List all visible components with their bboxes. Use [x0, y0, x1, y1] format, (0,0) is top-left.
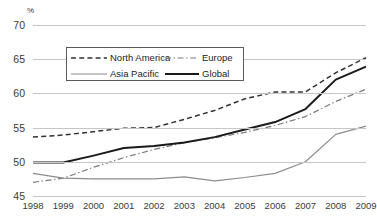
plot-area	[33, 18, 366, 196]
legend-item-europe[interactable]: Europe	[165, 49, 233, 66]
series-line-europe	[33, 89, 366, 182]
x-tick-label: 2002	[144, 200, 165, 211]
legend-item-north-america[interactable]: North America	[71, 49, 170, 66]
legend-item-asia-pacific[interactable]: Asia Pacific	[71, 65, 159, 82]
x-tick-label: 2008	[325, 200, 346, 211]
y-axis-unit-label: %	[27, 6, 34, 15]
legend-label: Global	[202, 68, 229, 79]
x-tick-label: 2001	[113, 200, 134, 211]
y-axis: 455055606570	[0, 0, 25, 220]
x-tick-label: 2005	[234, 200, 255, 211]
gridline-60	[33, 93, 366, 94]
y-tick-label: 60	[5, 87, 25, 99]
x-tick-label: 2003	[174, 200, 195, 211]
legend-swatch-icon	[165, 69, 199, 79]
x-tick-label: 2007	[295, 200, 316, 211]
x-axis: 1998199920002001200220032004200520062007…	[33, 197, 366, 219]
series-layer	[33, 18, 366, 196]
legend-item-global[interactable]: Global	[165, 65, 229, 82]
gridline-50	[33, 162, 366, 163]
chart-legend: North AmericaEuropeAsia PacificGlobal	[66, 47, 244, 81]
legend-swatch-icon	[71, 53, 107, 63]
legend-label: North America	[110, 52, 170, 63]
x-tick-label: 1998	[22, 200, 43, 211]
x-tick-label: 1999	[53, 200, 74, 211]
series-line-asia-pacific	[33, 126, 366, 181]
y-tick-label: 70	[5, 19, 25, 31]
legend-swatch-icon	[165, 53, 199, 63]
legend-label: Asia Pacific	[110, 68, 159, 79]
legend-label: Europe	[202, 52, 233, 63]
x-tick-label: 2000	[83, 200, 104, 211]
y-tick-label: 50	[5, 156, 25, 168]
y-tick-label: 55	[5, 122, 25, 134]
gridline-70	[33, 25, 366, 26]
x-tick-label: 2006	[265, 200, 286, 211]
gridline-55	[33, 128, 366, 129]
legend-swatch-icon	[71, 69, 107, 79]
x-tick-label: 2009	[355, 200, 376, 211]
y-tick-label: 65	[5, 53, 25, 65]
x-tick-label: 2004	[204, 200, 225, 211]
